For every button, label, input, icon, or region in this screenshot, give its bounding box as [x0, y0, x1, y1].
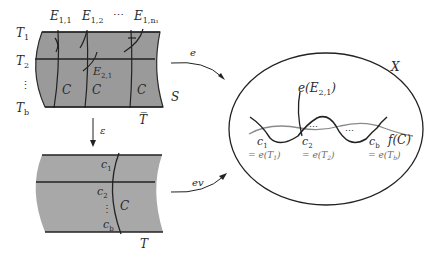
label-c-1: C: [62, 83, 71, 97]
label-c-bottom: C: [120, 199, 129, 213]
diagram-canvas: E1,1 E1,2 ⋯ E1,n₁ T1 T2 ⋮ Tb E2,1 C C C …: [0, 0, 439, 258]
arrow-e: e: [171, 47, 225, 80]
label-e-arrow: e: [190, 47, 196, 58]
label-e12: E1,2: [81, 9, 104, 25]
label-eq-t2: = e(T2): [302, 150, 335, 161]
dots-2: ⋯: [345, 126, 354, 136]
label-t2: T2: [16, 54, 29, 70]
label-c-2: C: [92, 83, 101, 97]
label-dots-top: ⋯: [113, 9, 124, 22]
arrow-ev: ev: [171, 173, 227, 192]
target-space-x: X ⋯ ⋯ e(E2,1) f(C) c1 = e(T1) c2 = e(T2)…: [229, 53, 423, 205]
label-e11: E1,1: [49, 9, 72, 25]
label-fc: f(C): [387, 133, 411, 147]
label-s: S: [171, 90, 179, 104]
label-epsilon: ε: [100, 125, 105, 136]
dots-1: ⋯: [309, 122, 318, 132]
label-tb: Tb: [16, 101, 29, 117]
label-vdots: ⋮: [20, 79, 31, 92]
label-eq-t1: = e(T1): [248, 150, 281, 161]
label-c-3: C: [137, 83, 146, 97]
label-e-e21: e(E2,1): [298, 81, 336, 97]
label-c2-x: c2: [302, 135, 313, 150]
label-cb-x: cb: [369, 135, 380, 150]
label-eq-tb: = e(Tb): [368, 150, 401, 161]
curve-e-e21: [298, 92, 302, 136]
label-e1n1: E1,n₁: [133, 9, 159, 25]
label-x: X: [390, 60, 400, 74]
label-t-bottom: T: [140, 237, 149, 251]
label-ev-arrow: ev: [192, 177, 204, 188]
label-c1-x: c1: [257, 135, 268, 150]
label-t-bar: T̅: [139, 112, 148, 127]
arrow-epsilon: ε: [90, 118, 105, 147]
label-t1: T1: [16, 26, 29, 42]
label-vdots-bottom: ⋮: [102, 203, 112, 214]
